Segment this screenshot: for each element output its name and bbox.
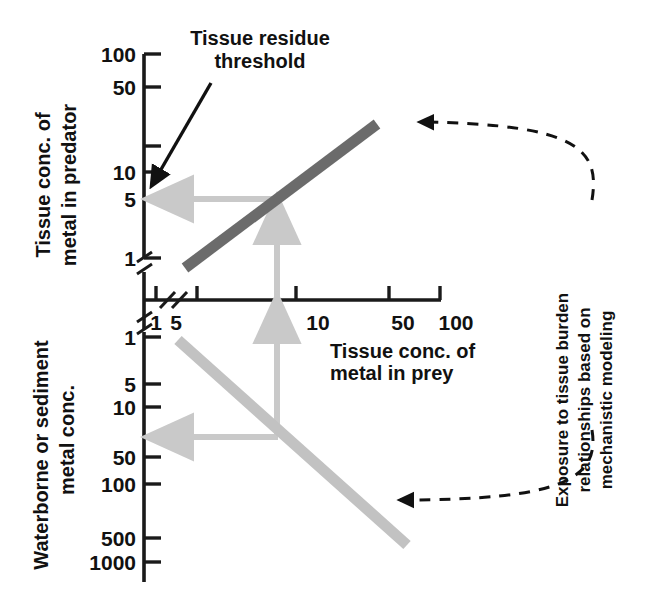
upper-y-label-100: 100: [101, 43, 136, 66]
threshold-callout-arrow: [152, 83, 211, 185]
upper-y-axis-title-line1: Tissue conc. of: [32, 112, 54, 258]
threshold-label-line1: Tissue residue: [190, 27, 330, 49]
shared-x-axis: [144, 286, 441, 308]
upper-y-axis-title-line2: metal in predator: [58, 104, 80, 266]
upper-y-label-5: 5: [124, 188, 136, 211]
x-axis-title: Tissue conc. of metal in prey: [330, 340, 476, 384]
lower-y-label-500: 500: [101, 527, 136, 550]
upper-y-label-50: 50: [113, 76, 136, 99]
lower-y-label-50: 50: [113, 446, 136, 469]
lower-y-tick-labels: 1 5 10 50 100 500 1000: [89, 326, 136, 574]
x-label-1: 1: [150, 311, 162, 334]
x-label-100: 100: [438, 311, 473, 334]
lower-y-axis-title-line1: Waterborne or sediment: [30, 340, 52, 570]
lower-y-axis-title-line2: metal conc.: [56, 385, 78, 495]
threshold-callout: Tissue residue threshold: [152, 27, 330, 185]
x-axis-title-line1: Tissue conc. of: [330, 340, 476, 362]
feedback-arrow-upper: [420, 122, 593, 200]
loop-label-line3: mechanistic modeling: [597, 311, 616, 490]
x-label-50: 50: [391, 311, 414, 334]
lower-y-label-1000: 1000: [89, 551, 136, 574]
lower-y-label-10: 10: [113, 396, 136, 419]
x-label-10: 10: [306, 311, 329, 334]
lower-y-label-100: 100: [101, 473, 136, 496]
lower-y-label-1: 1: [124, 326, 136, 349]
lower-y-axis-title: Waterborne or sediment metal conc.: [30, 340, 78, 570]
loop-label-line1: Exposure to tissue burden: [553, 293, 572, 507]
lower-y-axis: [137, 300, 161, 582]
upper-y-label-10: 10: [113, 161, 136, 184]
figure-svg: 100 50 10 5 1 Tissue conc. of metal in p…: [0, 0, 663, 602]
data-lines: [178, 124, 407, 545]
x-tick-labels: 1 5 10 50 100: [150, 311, 473, 334]
x-axis-title-line2: metal in prey: [330, 362, 454, 384]
feedback-loop-label: Exposure to tissue burden relationships …: [553, 293, 616, 507]
threshold-label-line2: threshold: [214, 50, 305, 72]
figure-canvas: 100 50 10 5 1 Tissue conc. of metal in p…: [0, 0, 663, 602]
lower-y-label-5: 5: [124, 373, 136, 396]
x-label-5: 5: [170, 311, 182, 334]
loop-label-line2: relationships based on: [575, 307, 594, 492]
upper-y-label-1: 1: [124, 247, 136, 270]
upper-y-axis-title: Tissue conc. of metal in predator: [32, 104, 80, 266]
upper-y-tick-labels: 100 50 10 5 1: [101, 43, 136, 270]
